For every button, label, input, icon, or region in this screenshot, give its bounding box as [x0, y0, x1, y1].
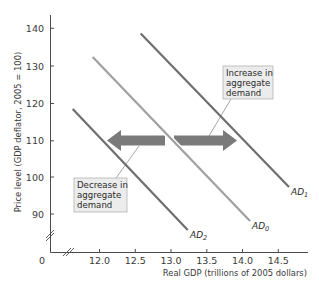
x-tick-label: 12.0	[89, 255, 110, 266]
increase-callout-line: Increase in	[226, 68, 273, 78]
y-axis-title: Price level (GDP deflator, 2005 = 100)	[13, 52, 23, 213]
x-tick-label: 14.5	[268, 255, 289, 266]
y-tick-label: 130	[26, 61, 44, 72]
x-tick-label: 14.0	[232, 255, 253, 266]
y-tick-label: 90	[32, 209, 44, 220]
ad2-label: AD2	[189, 230, 207, 242]
y-tick-label: 140	[26, 23, 44, 34]
y-tick-label: 100	[26, 172, 44, 183]
increase-arrow	[174, 130, 237, 151]
x-tick-label: 13.5	[196, 255, 217, 266]
y-ticks	[51, 28, 55, 214]
decrease-callout: Decrease in aggregate demand	[74, 146, 139, 212]
y-tick-label: 120	[26, 98, 44, 109]
decrease-callout-line: aggregate	[77, 190, 121, 200]
x-tick-labels: 0 12.0 12.5 13.0 13.5 14.0 14.5	[39, 255, 289, 266]
increase-callout-line: aggregate	[226, 78, 270, 88]
increase-callout: Increase in aggregate demand	[209, 66, 273, 136]
decrease-callout-line: Decrease in	[77, 180, 128, 190]
ad1-label: AD1	[290, 187, 308, 199]
y-tick-label: 110	[26, 135, 44, 146]
x-tick-label: 13.0	[160, 255, 181, 266]
x-ticks	[100, 249, 279, 253]
ad0-label: AD0	[251, 221, 269, 233]
decrease-callout-line: demand	[77, 200, 112, 210]
origin-label: 0	[39, 255, 45, 266]
increase-callout-line: demand	[226, 88, 261, 98]
aggregate-demand-chart: 140 130 120 110 100 90 0 12.0 12.5 13.0 …	[0, 0, 319, 287]
y-tick-labels: 140 130 120 110 100 90	[26, 23, 44, 220]
ad1-curve	[141, 34, 289, 188]
decrease-arrow	[107, 130, 165, 151]
x-tick-label: 12.5	[125, 255, 146, 266]
x-axis-title: Real GDP (trillions of 2005 dollars)	[163, 268, 307, 278]
